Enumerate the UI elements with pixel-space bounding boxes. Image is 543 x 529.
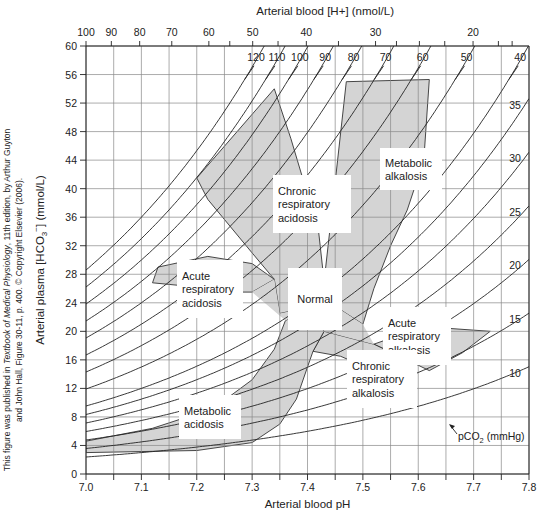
isopleth-label: 40 [514,51,526,63]
y-tick-label: 60 [65,40,77,52]
y-tick-label: 4 [71,439,77,451]
top-tick-label: 100 [77,26,95,38]
isopleth-label: 110 [269,51,286,63]
region-label-chronic-respiratory-alkalosis: Chronicrespiratoryalkalosis [347,350,417,408]
y-tick-label: 36 [65,211,77,223]
y-tick-label: 44 [65,154,77,166]
region-label-line: acidosis [184,418,224,430]
region-label-line: respiratory [278,198,330,210]
isopleth-label: 35 [509,99,521,111]
region-label-line: alkalosis [385,170,428,182]
isopleth-label: 30 [509,152,521,164]
top-tick-label: 40 [301,26,313,38]
y-tick-label: 40 [65,183,77,195]
region-label-line: Chronic [278,185,316,197]
copyright-note-line-1: This figure was published in Textbook of… [2,128,12,471]
region-label-line: Metabolic [184,405,232,417]
isopleth-label-leader [509,66,518,80]
top-tick-label: 90 [105,26,117,38]
region-label-line: alkalosis [352,387,395,399]
region-label-line: acidosis [278,212,318,224]
top-tick-label: 50 [247,26,259,38]
isopleth-label: 10 [509,367,521,379]
y-tick-label: 48 [65,126,77,138]
region-label-acute-respiratory-acidosis: Acuterespiratoryacidosis [177,260,243,318]
y-axis-title-post: ] (mmol/L) [34,175,46,227]
region-label-line: Acute [182,270,210,282]
y-axis-title: Arterial plasma [HCO3−] (mmol/L) [32,175,49,345]
regions-group [86,80,490,453]
isopleth-label-leader [455,66,464,80]
y-tick-label: 52 [65,97,77,109]
region-label-box [179,395,241,439]
region-label-metabolic-alkalosis: Metabolicalkalosis [380,148,442,190]
x-tick-label: 7.7 [466,481,481,493]
x-tick-label: 7.1 [134,481,149,493]
region-label-line: respiratory [182,283,234,295]
region-label-line: Chronic [352,360,390,372]
copyright-note-line-2: and John Hall, Figure 30-11, p. 400. © C… [14,178,24,422]
y-tick-label: 8 [71,411,77,423]
isopleth-label-leader [245,66,254,80]
region-label-line: Normal [297,293,332,305]
x-tick-label: 7.8 [522,481,537,493]
region-label-line: acidosis [182,297,222,309]
isopleth-label: 20 [509,259,521,271]
y-tick-label: 12 [65,382,77,394]
region-label-chronic-respiratory-acidosis: Chronicrespiratoryacidosis [273,175,351,233]
isopleth-label: 15 [509,313,521,325]
isopleth-label-leader [288,66,297,80]
isopleth-label: 80 [348,51,360,63]
y-tick-label: 0 [71,468,77,480]
isopleth-label: 120 [247,51,265,63]
pco2-arrow-head [449,424,455,429]
isopleth-label: 60 [417,51,429,63]
isopleth-label: 50 [461,51,473,63]
pco2-unit-label: pCO2 (mmHg) [458,430,525,445]
y-tick-label: 56 [65,69,77,81]
region-label-metabolic-acidosis: Metabolicacidosis [179,395,241,439]
isopleth-label-leader [374,66,383,80]
isopleth-label-leader [411,66,420,80]
isopleth-label: 25 [509,206,521,218]
top-tick-label: 70 [166,26,178,38]
y-tick-label: 20 [65,325,77,337]
y-axis-title-pre: Arterial plasma [HCO [34,236,46,345]
top-tick-label: 20 [467,26,479,38]
isopleth-label: 100 [291,51,309,63]
region-label-line: Metabolic [385,157,433,169]
isopleth-label: 70 [380,51,392,63]
top-tick-label: 80 [134,26,146,38]
isopleth-label-leader [266,66,275,80]
isopleth-label-leader [314,66,323,80]
x-axis-title: Arterial blood pH [265,498,351,510]
region-label-normal: Normal [288,268,342,330]
y-tick-label: 16 [65,354,77,366]
region-label-box [380,148,442,190]
x-tick-label: 7.5 [356,481,371,493]
acid-base-nomogram: 7.07.17.27.37.47.57.67.77.8Arterial bloo… [0,0,543,529]
y-tick-label: 24 [65,297,77,309]
region-label-line: respiratory [352,373,404,385]
top-tick-label: 30 [370,26,382,38]
y-axis-title-sub: 3 [40,231,49,236]
isopleth-label-leader [342,66,351,80]
top-tick-label: 60 [203,26,215,38]
x-tick-label: 7.4 [300,481,315,493]
x-tick-label: 7.2 [189,481,204,493]
y-tick-label: 28 [65,268,77,280]
region-label-line: Acute [388,317,416,329]
y-tick-label: 32 [65,240,77,252]
top-axis-title: Arterial blood [H+] (nmol/L) [256,5,394,17]
isopleth-label: 90 [319,51,331,63]
x-tick-label: 7.0 [79,481,94,493]
pco2-unit-post: (mmHg) [484,430,525,442]
x-tick-label: 7.6 [411,481,426,493]
x-tick-label: 7.3 [245,481,260,493]
region-label-line: respiratory [388,330,440,342]
pco2-unit-pre: pCO [458,430,480,442]
